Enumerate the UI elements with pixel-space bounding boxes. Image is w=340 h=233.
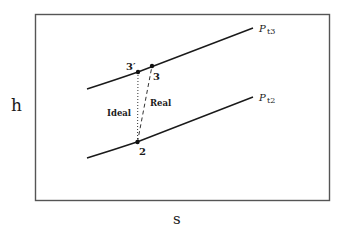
point-3 bbox=[150, 64, 154, 68]
point-3-prime bbox=[136, 70, 140, 74]
ideal-process-line bbox=[138, 72, 139, 142]
point-2 bbox=[135, 140, 139, 144]
ideal-label: Ideal bbox=[107, 108, 132, 118]
x-axis-label: s bbox=[173, 210, 181, 228]
pt3-label-sub: t3 bbox=[267, 27, 275, 36]
pt3-label: P t3 bbox=[258, 23, 275, 36]
real-label: Real bbox=[150, 98, 172, 108]
pt2-label-sub: t2 bbox=[267, 96, 275, 105]
point-3-label: 3 bbox=[153, 71, 160, 82]
y-axis-label: h bbox=[11, 95, 22, 115]
pt3-label-main: P bbox=[258, 23, 266, 34]
isobar-pt3-curve bbox=[87, 28, 253, 89]
pt2-label-main: P bbox=[258, 92, 266, 103]
point-2-label: 2 bbox=[139, 146, 146, 157]
h-s-diagram: 3′ 3 2 Real Ideal P t3 P t2 h s bbox=[0, 0, 340, 233]
pt2-label: P t2 bbox=[258, 92, 275, 105]
point-3-prime-label: 3′ bbox=[126, 61, 136, 72]
plot-frame bbox=[36, 15, 330, 201]
